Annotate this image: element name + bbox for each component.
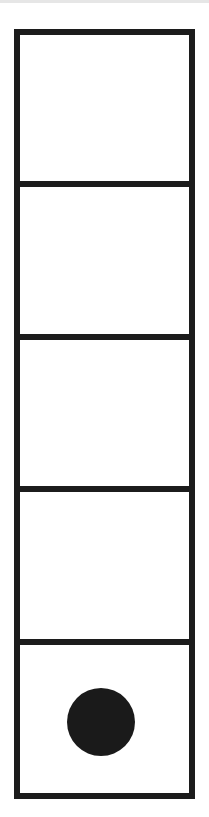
board-cell-row-2[interactable] — [20, 187, 189, 334]
board-cell-row-4[interactable] — [20, 492, 189, 639]
board-cell-row-1[interactable] — [20, 35, 189, 181]
board-cell-row-5[interactable] — [20, 645, 189, 793]
game-board-column — [14, 29, 195, 799]
board-cell-row-3[interactable] — [20, 340, 189, 486]
top-edge-band — [0, 0, 209, 3]
black-circle-piece[interactable] — [67, 688, 135, 756]
